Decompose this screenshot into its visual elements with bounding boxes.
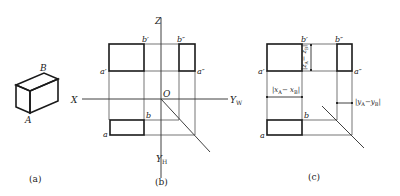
label-YH: YH [156, 154, 167, 165]
label-YW: YW [230, 95, 243, 106]
diagonal-45 [322, 106, 364, 148]
label-O: O [163, 89, 171, 99]
front-view-rect [267, 44, 302, 71]
front-view-rect [109, 44, 144, 71]
label-a: a [103, 130, 108, 139]
caption-a: (a) [29, 174, 41, 184]
label-a-dprime: a″ [354, 67, 362, 76]
block-side-face [16, 85, 30, 113]
panel-c-projection: |xA− xB| |yA−yB| |zA− zB| a′ b′ b″ a″ b … [258, 35, 381, 182]
top-view-rect [267, 120, 302, 135]
label-a: a [260, 131, 265, 140]
label-a-dprime: a″ [197, 67, 205, 76]
projection-diagram: B A (a) Z X O YW YH a′ b′ b″ a″ b a (b) [0, 0, 400, 196]
block-front-face [30, 79, 58, 113]
label-a-prime: a′ [100, 67, 107, 76]
label-X: X [70, 95, 78, 105]
panel-b-projection: Z X O YW YH a′ b′ b″ a″ b a (b) [70, 16, 243, 187]
label-b-prime: b′ [142, 35, 149, 44]
caption-c: (c) [308, 172, 320, 182]
side-view-rect [179, 44, 195, 71]
label-b-dprime: b″ [177, 35, 185, 44]
panel-a-isometric: B A (a) [16, 63, 58, 184]
label-A: A [24, 115, 32, 125]
label-Z: Z [154, 16, 162, 26]
side-view-rect [337, 44, 352, 71]
label-b: b [146, 111, 151, 120]
label-b-dprime: b″ [335, 35, 343, 44]
label-a-prime: a′ [258, 67, 265, 76]
label-b-prime: b′ [301, 35, 308, 44]
dim-x-label: |xA− xB| [272, 86, 300, 95]
diagonal-45 [161, 99, 210, 152]
top-view-rect [110, 120, 144, 135]
label-b: b [304, 111, 309, 120]
label-B: B [39, 63, 47, 73]
caption-b: (b) [155, 177, 168, 187]
dim-y-label: |yA−yB| [355, 98, 381, 107]
